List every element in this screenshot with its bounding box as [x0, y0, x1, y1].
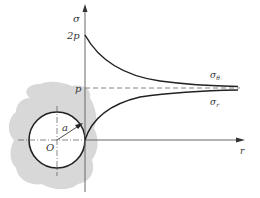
p-label: p — [75, 83, 82, 94]
radius-label: a — [62, 122, 68, 133]
center-label: O — [46, 142, 54, 153]
two-p-label: 2p — [66, 30, 80, 41]
sigma-r-label: σr — [210, 97, 220, 108]
r-axis-label: r — [240, 146, 245, 156]
y-axis-label: σ — [73, 13, 81, 24]
stress-diagram: σ 2p p r σθ σr O a — [0, 0, 260, 198]
y-axis-arrowhead — [83, 4, 88, 12]
sigma-theta-label: σθ — [210, 70, 220, 81]
r-axis-arrowhead — [236, 138, 245, 143]
